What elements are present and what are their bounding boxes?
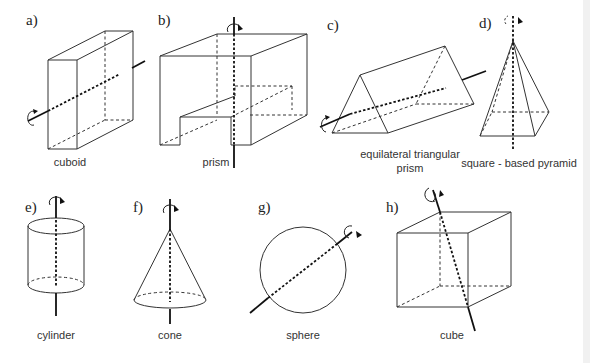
caption-cube: cube (440, 329, 464, 341)
panel-letter-e: e) (25, 199, 37, 216)
caption-triangular-prism-line2: prism (397, 162, 424, 174)
panel-c-triangular-prism: c) (320, 17, 486, 133)
caption-sphere: sphere (286, 329, 320, 341)
panel-letter-a: a) (26, 12, 38, 29)
panel-letter-b: b) (158, 12, 171, 29)
panel-e-cylinder: e) (25, 196, 84, 316)
solids-diagram: a) cuboid b) (0, 0, 590, 363)
panel-letter-d: d) (479, 15, 492, 32)
panel-h-cube: h) (386, 188, 511, 331)
panel-letter-c: c) (327, 17, 339, 34)
panel-letter-f: f) (133, 199, 143, 216)
panel-d-square-pyramid: d) (479, 15, 549, 150)
panel-letter-h: h) (386, 199, 399, 216)
caption-cone: cone (158, 329, 182, 341)
caption-prism: prism (203, 156, 230, 168)
panel-b-prism: b) (158, 12, 307, 168)
panel-g-sphere: g) (250, 199, 362, 313)
figure-canvas: a) cuboid b) (0, 0, 590, 363)
caption-square-pyramid: square - based pyramid (461, 157, 577, 169)
panel-f-cone: f) (133, 199, 206, 324)
caption-cylinder: cylinder (37, 329, 75, 341)
panel-a-cuboid: a) (26, 12, 145, 149)
panel-letter-g: g) (258, 199, 271, 216)
caption-cuboid: cuboid (54, 156, 86, 168)
caption-triangular-prism-line1: equilateral triangular (360, 148, 460, 160)
